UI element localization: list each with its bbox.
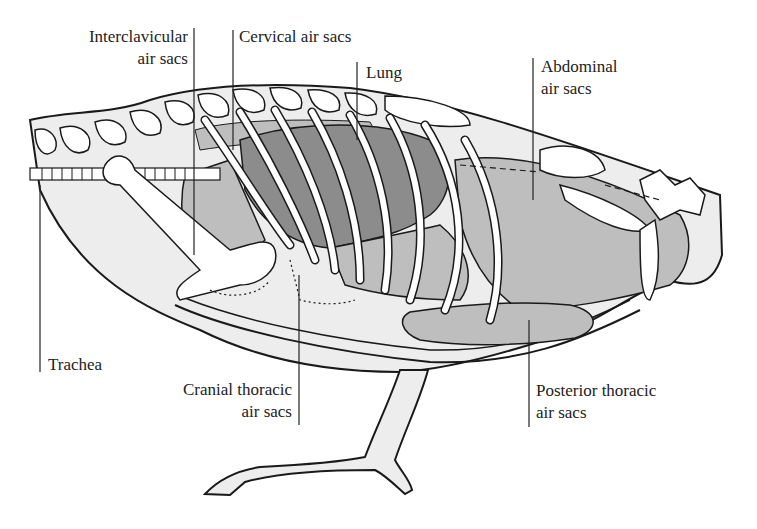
label-line: Cervical air sacs xyxy=(239,26,351,48)
label-posterior-thoracic-air-sacs: Posterior thoracic air sacs xyxy=(536,380,656,424)
label-cranial-thoracic-air-sacs: Cranial thoracic air sacs xyxy=(132,379,292,423)
posterior-thoracic-air-sac xyxy=(403,303,594,345)
label-line: air sacs xyxy=(536,402,656,424)
label-trachea: Trachea xyxy=(48,354,102,376)
label-line: air sacs xyxy=(132,401,292,423)
label-line: Interclavicular xyxy=(40,26,188,48)
label-line: air sacs xyxy=(541,78,618,100)
label-interclavicular-air-sacs: Interclavicular air sacs xyxy=(40,26,188,70)
label-line: Trachea xyxy=(48,354,102,376)
label-lung: Lung xyxy=(366,62,402,84)
label-line: air sacs xyxy=(40,48,188,70)
label-line: Posterior thoracic xyxy=(536,380,656,402)
label-cervical-air-sacs: Cervical air sacs xyxy=(239,26,351,48)
label-abdominal-air-sacs: Abdominal air sacs xyxy=(541,56,618,100)
label-line: Lung xyxy=(366,62,402,84)
label-line: Abdominal xyxy=(541,56,618,78)
label-line: Cranial thoracic xyxy=(132,379,292,401)
